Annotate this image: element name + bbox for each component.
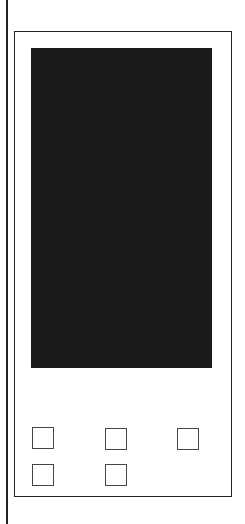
swatch-e [177,428,199,450]
swatch-a [32,427,54,449]
swatch-b [32,464,54,486]
swatch-d [105,464,127,486]
knitting-chart-grid [31,48,212,368]
page-margin-rule [6,0,8,524]
swatch-c [105,428,127,450]
